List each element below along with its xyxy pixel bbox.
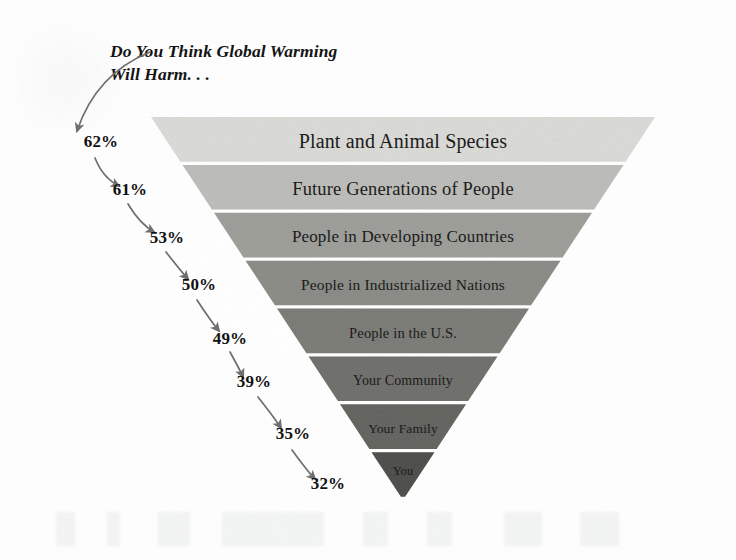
percent-label-people-in-developing-countries: 53% [150, 228, 185, 248]
band-label-your-community: Your Community [353, 373, 453, 389]
percent-label-your-family: 35% [276, 424, 311, 444]
percent-label-your-community: 39% [237, 372, 272, 392]
title-connector-arrow-icon [77, 52, 150, 131]
cascade-arrow-icon [197, 300, 219, 331]
percent-label-plant-and-animal-species: 62% [84, 132, 119, 152]
percent-label-you: 32% [311, 474, 346, 494]
band-label-people-in-industrialized-nations: People in Industrialized Nations [301, 276, 505, 294]
funnel-bands [151, 117, 655, 497]
band-label-plant-and-animal-species: Plant and Animal Species [299, 130, 508, 153]
percent-label-future-generations-of-people: 61% [113, 180, 148, 200]
percent-label-people-in-the-us: 49% [213, 329, 248, 349]
band-label-people-in-the-us: People in the U.S. [349, 325, 457, 342]
chart-canvas: Do You Think Global Warming Will Harm. .… [0, 0, 736, 560]
percent-label-people-in-industrialized-nations: 50% [182, 275, 217, 295]
band-label-your-family: Your Family [368, 421, 438, 437]
band-label-people-in-developing-countries: People in Developing Countries [292, 227, 514, 247]
band-label-you: You [393, 464, 414, 479]
band-label-future-generations-of-people: Future Generations of People [292, 179, 514, 200]
